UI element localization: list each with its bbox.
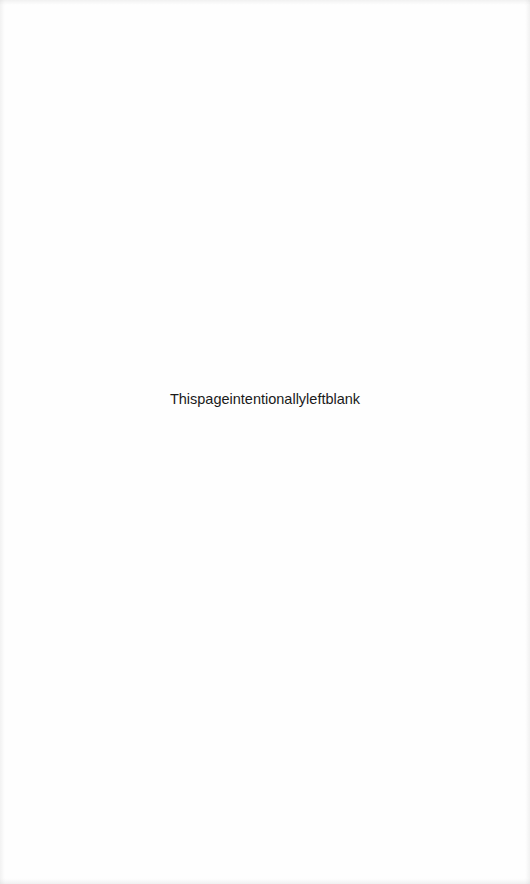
blank-page: Thispageintentionallyleftblank [0,0,530,884]
scan-edge-top [0,0,530,5]
scan-edge-bottom [0,878,530,884]
blank-page-notice: Thispageintentionallyleftblank [0,389,530,409]
scan-edge-left [0,0,5,884]
scan-edge-right [525,0,530,884]
